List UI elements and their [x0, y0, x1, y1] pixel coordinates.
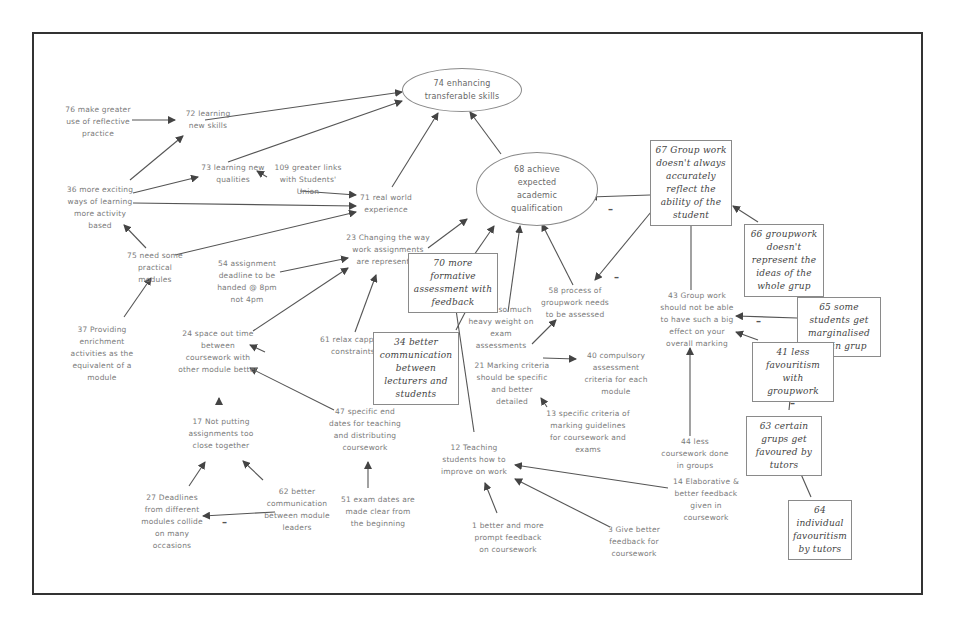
node-73: 73 learning new qualities [198, 162, 268, 186]
node-66: 66 groupwork doesn't represent the ideas… [744, 224, 824, 297]
node-13: 13 specific criteria of marking guidelin… [546, 408, 630, 456]
node-63: 63 certain grups get favoured by tutors [746, 416, 822, 476]
node-12: 12 Teaching students how to improve on w… [434, 442, 514, 478]
goal-74: 74 enhancing transferable skills [402, 68, 522, 112]
node-37: 37 Providing enrichment activities as th… [64, 324, 140, 384]
node-75: 75 need some practical modules [120, 250, 190, 286]
node-54: 54 assignment deadline to be handed @ 8p… [212, 258, 282, 306]
node-67: 67 Group work doesn't always accurately … [650, 140, 732, 226]
node-43: 43 Group work should not be able to have… [656, 290, 738, 350]
node-34: 34 better communication between lecturer… [373, 332, 459, 405]
goal-68: 68 achieve expected academic qualificati… [476, 152, 598, 226]
node-1: 1 better and more prompt feedback on cou… [470, 520, 546, 556]
node-58: 58 process of groupwork needs to be asse… [540, 285, 610, 321]
node-41: 41 less favouritism with groupwork [752, 342, 834, 402]
node-72: 72 learning new skills [178, 108, 238, 132]
node-36: 36 more exciting ways of learning more a… [64, 184, 136, 232]
negative-sign: – [790, 398, 795, 409]
node-27: 27 Deadlines from different modules coll… [136, 492, 208, 552]
node-109: 109 greater links with Students' Union [268, 162, 348, 198]
negative-sign: – [608, 204, 613, 215]
node-21: 21 Marking criteria should be specific a… [474, 360, 550, 408]
node-71: 71 real world experience [358, 192, 414, 216]
node-47: 47 specific end dates for teaching and d… [328, 406, 402, 454]
node-40: 40 compulsory assessment criteria for ea… [578, 350, 654, 398]
node-51: 51 exam dates are made clear from the be… [340, 494, 416, 530]
negative-sign: – [756, 316, 761, 327]
node-64: 64 individual favouritism by tutors [788, 500, 852, 560]
node-76: 76 make greater use of reflective practi… [62, 104, 134, 140]
node-3: 3 Give better feedback for coursework [604, 524, 664, 560]
node-14: 14 Elaborative & better feedback given i… [668, 476, 744, 524]
node-17: 17 Not putting assignments too close tog… [182, 416, 260, 452]
node-70: 70 more formative assessment with feedba… [408, 253, 498, 313]
node-24: 24 space out time between coursework wit… [178, 328, 258, 376]
negative-sign: – [222, 517, 227, 528]
negative-sign: – [614, 272, 619, 283]
node-62: 62 better communication between module l… [262, 486, 332, 534]
node-44: 44 less coursework done in groups [660, 436, 730, 472]
